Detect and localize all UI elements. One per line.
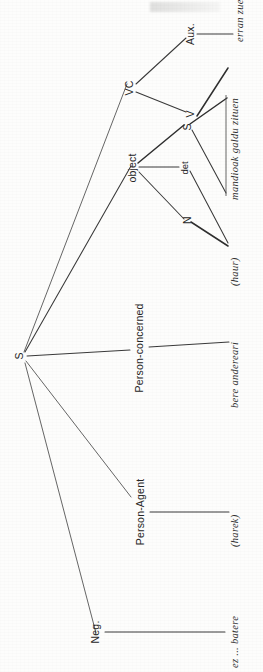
edge-root-to-vc (24, 84, 127, 352)
edge-group-root (24, 84, 131, 633)
node-neg: Neg. (89, 621, 101, 644)
edge-root-to-neg (25, 363, 96, 633)
edge-det-to-haur (190, 171, 228, 243)
edge-root-to-person-concerned (27, 350, 130, 356)
terminal-harek: (harek) (229, 514, 241, 547)
edge-object-to-embedded-s (138, 125, 184, 163)
node-person-concerned: Person-concerned (133, 304, 145, 393)
node-aux: Aux. (184, 23, 196, 45)
node-root-s: S (13, 352, 25, 359)
edge-object-to-n (139, 172, 184, 219)
node-embedded-s: S (181, 123, 193, 130)
edge-group-person-concerned (149, 342, 229, 347)
node-v: V (184, 110, 196, 117)
terminal-haur: (haur) (229, 257, 241, 286)
edge-root-to-person-agent (26, 361, 131, 497)
terminal-bere-andereari: bere andereari (229, 342, 240, 408)
node-det: det (179, 161, 190, 175)
edge-n-to-haur (191, 222, 228, 246)
edge-vc-to-aux (136, 38, 186, 84)
terminal-ez-batere: ez ... batere (229, 616, 240, 668)
node-person-agent: Person-Agent (134, 479, 146, 546)
tree-canvas: S VC Aux. V object det N S Person-concer… (0, 0, 263, 672)
edge-root-to-object (25, 166, 131, 352)
edge-person-concerned-to-bere-andereari (149, 342, 229, 347)
edge-vc-to-v (136, 92, 186, 112)
terminal-erran-zuen: erran zuen (234, 0, 245, 42)
syntax-tree-figure: S VC Aux. V object det N S Person-concer… (0, 0, 263, 672)
node-n: N (181, 216, 193, 224)
terminal-mandioak-galdu-zituen: mandioak galdu zituen (229, 98, 240, 200)
node-vc: VC (123, 80, 135, 95)
node-object: object (126, 153, 138, 182)
